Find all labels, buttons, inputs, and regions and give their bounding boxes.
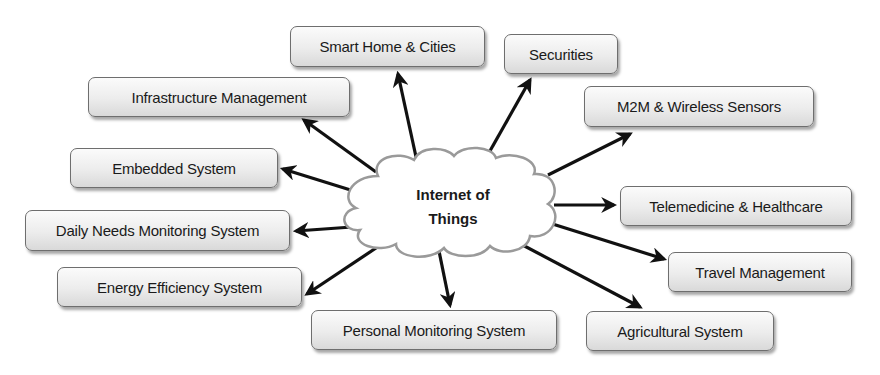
arrow-daily-needs [296,227,352,231]
arrow-infrastructure [304,120,376,172]
node-infrastructure-management: Infrastructure Management [88,77,350,117]
node-smart-home-cities: Smart Home & Cities [290,26,485,67]
arrow-personal [439,251,450,305]
node-energy-efficiency: Energy Efficiency System [57,267,302,307]
node-m2m-wireless-sensors: M2M & Wireless Sensors [584,86,814,127]
arrow-m2m [548,134,630,175]
central-concept-line1: Internet of [360,183,546,207]
node-embedded-system: Embedded System [70,148,278,188]
node-telemedicine-healthcare: Telemedicine & Healthcare [620,186,852,226]
arrow-smart-home [398,74,418,166]
arrow-securities [486,80,530,158]
node-agricultural-system: Agricultural System [586,311,774,351]
arrow-embedded [283,169,357,192]
arrow-travel [543,221,664,259]
arrow-agricultural [515,241,640,307]
arrow-energy [307,242,385,294]
node-securities: Securities [504,34,618,74]
node-daily-needs-monitoring: Daily Needs Monitoring System [25,210,290,251]
node-travel-management: Travel Management [668,252,852,292]
central-concept-line2: Things [360,207,546,231]
node-personal-monitoring: Personal Monitoring System [311,310,557,350]
central-concept: Internet of Things [360,183,546,231]
